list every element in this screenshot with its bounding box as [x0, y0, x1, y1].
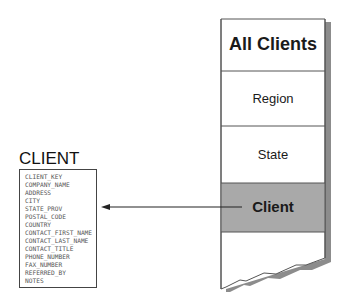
- field-item: POSTAL_CODE: [25, 213, 66, 221]
- arrowhead-icon: [101, 204, 110, 210]
- field-item: NOTES: [25, 277, 44, 285]
- level-region: Region: [221, 91, 325, 106]
- field-item: STATE_PROV: [25, 205, 62, 213]
- field-item: COUNTRY: [25, 221, 51, 229]
- level-all-clients: All Clients: [221, 34, 325, 55]
- level-client: Client: [221, 198, 325, 215]
- field-item: CONTACT_LAST_NAME: [25, 237, 88, 245]
- entity-field-list: CLIENT_KEY COMPANY_NAME ADDRESS CITY STA…: [19, 169, 97, 288]
- field-item: CONTACT_TITLE: [25, 245, 73, 253]
- field-item: ADDRESS: [25, 189, 51, 197]
- field-item: REFERRED_BY: [25, 269, 66, 277]
- entity-title: CLIENT: [19, 149, 79, 169]
- level-state: State: [221, 147, 325, 162]
- field-item: CLIENT_KEY: [25, 173, 62, 181]
- field-item: CONTACT_FIRST_NAME: [25, 229, 92, 237]
- field-item: FAX_NUMBER: [25, 261, 62, 269]
- field-item: PHONE_NUMBER: [25, 253, 70, 261]
- field-item: CITY: [25, 197, 40, 205]
- field-item: COMPANY_NAME: [25, 181, 70, 189]
